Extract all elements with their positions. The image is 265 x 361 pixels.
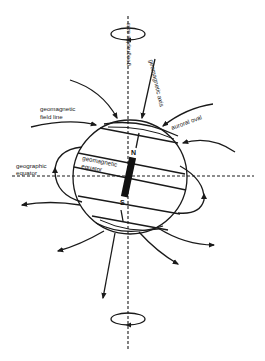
geographic-axis-label: geographic axis: [124, 23, 131, 66]
auroral-oval-label: auroral oval: [170, 113, 203, 131]
geographic-equator-label-1: geographic: [16, 162, 47, 169]
rotation-bottom-icon: [111, 313, 145, 328]
south-pole-label: S: [120, 199, 125, 206]
geographic-equator-label-2: equator: [16, 169, 37, 176]
field-line-label-2: field line: [40, 113, 63, 120]
geomagnetic-axis-label: geomagnetic axis: [148, 59, 166, 107]
field-line-label-1: geomagnetic: [40, 105, 75, 112]
earth-magnetic-field-diagram: N S geographic axis geomagnetic axis geo…: [0, 0, 265, 361]
north-pole-label: N: [131, 149, 136, 156]
outgoing-field-lines: [22, 203, 214, 299]
